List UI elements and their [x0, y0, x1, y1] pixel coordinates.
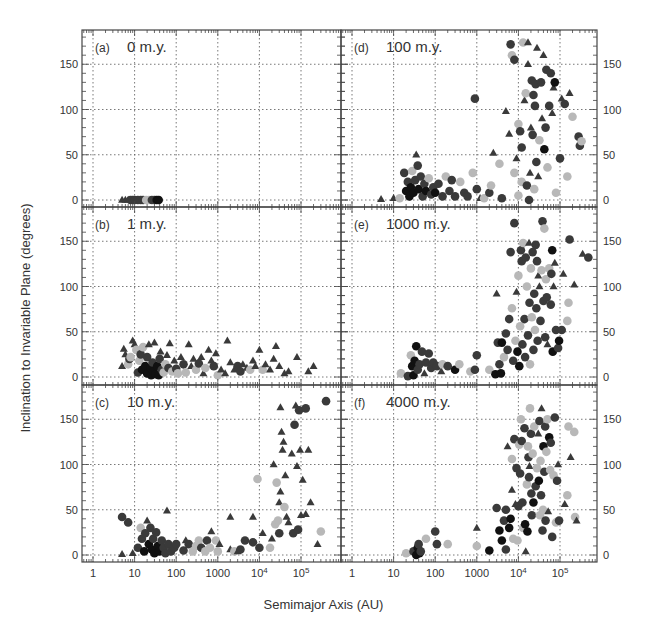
circle-marker: [584, 253, 593, 262]
y-tick-label: 150: [60, 58, 78, 70]
panel-e: 050100150(e)1000 m.y.: [341, 207, 621, 385]
circle-marker: [184, 540, 193, 549]
triangle-marker: [314, 540, 322, 547]
triangle-marker: [120, 345, 128, 352]
circle-marker: [538, 217, 547, 226]
x-tick-label: 105: [293, 566, 310, 579]
circle-marker: [533, 257, 542, 266]
triangle-marker: [473, 524, 481, 531]
circle-marker: [521, 253, 530, 262]
y-tick-label: 50: [66, 326, 78, 338]
circle-marker: [431, 188, 440, 197]
circle-marker: [536, 317, 545, 326]
circle-marker: [322, 397, 331, 406]
circle-marker: [487, 181, 496, 190]
circle-marker: [555, 516, 564, 525]
circle-marker: [508, 304, 517, 313]
circle-marker: [517, 415, 526, 424]
panel-time-label: 1 m.y.: [127, 215, 167, 232]
y-tick-label: 50: [603, 504, 615, 516]
circle-marker: [456, 178, 465, 187]
circle-marker: [497, 369, 506, 378]
circle-marker: [447, 176, 456, 185]
x-tick-label: 104: [251, 566, 268, 579]
circle-marker: [529, 498, 538, 507]
circle-marker: [400, 169, 409, 178]
circle-marker: [537, 491, 546, 500]
triangle-marker: [166, 339, 174, 346]
circle-marker: [236, 367, 245, 376]
triangle-marker: [207, 527, 215, 534]
panel-label: (b): [95, 218, 110, 232]
circle-marker: [172, 540, 181, 549]
circle-marker: [538, 526, 547, 535]
triangle-marker: [524, 60, 532, 67]
triangle-marker: [157, 347, 165, 354]
circle-marker: [468, 169, 477, 178]
triangle-marker: [538, 404, 546, 411]
triangle-marker: [502, 107, 510, 114]
circle-marker: [506, 40, 515, 49]
triangle-marker: [412, 151, 420, 158]
circle-marker: [532, 304, 541, 313]
circle-marker: [526, 360, 535, 369]
circle-marker: [502, 329, 511, 338]
triangle-marker: [288, 449, 296, 456]
panel-time-label: 100 m.y.: [386, 38, 442, 55]
y-tick-label: 100: [603, 281, 621, 293]
triangle-marker: [293, 462, 301, 469]
triangle-marker: [284, 367, 292, 374]
circle-marker: [546, 438, 555, 447]
circle-marker: [525, 196, 534, 205]
circle-marker: [543, 415, 552, 424]
triangle-marker: [249, 513, 257, 520]
circle-marker: [524, 442, 533, 451]
triangle-marker: [259, 529, 267, 536]
circle-marker: [140, 547, 149, 556]
circle-marker: [516, 127, 525, 136]
triangle-marker: [551, 259, 559, 266]
x-tick-label: 1000: [206, 567, 230, 579]
circle-marker: [473, 351, 482, 360]
triangle-marker: [559, 270, 567, 277]
circle-marker: [531, 102, 540, 111]
circle-marker: [543, 163, 552, 172]
x-tick-label: 100: [426, 567, 444, 579]
circle-marker: [530, 289, 539, 298]
triangle-marker: [272, 342, 280, 349]
triangle-marker: [512, 288, 520, 295]
circle-marker: [537, 266, 546, 275]
triangle-marker: [270, 355, 278, 362]
circle-marker: [505, 315, 514, 324]
y-tick-label: 100: [60, 281, 78, 293]
y-tick-label: 0: [72, 371, 78, 383]
circle-marker: [563, 172, 572, 181]
circle-marker: [508, 455, 517, 464]
x-axis-label: Semimajor Axis (AU): [0, 597, 647, 612]
circle-marker: [433, 540, 442, 549]
circle-marker: [471, 94, 480, 103]
circle-marker: [438, 192, 447, 201]
circle-marker: [542, 448, 551, 457]
triangle-marker: [150, 338, 158, 345]
circle-marker: [541, 333, 550, 342]
y-tick-label: 0: [603, 371, 609, 383]
y-tick-label: 150: [60, 413, 78, 425]
data-points: [118, 397, 331, 558]
triangle-marker: [296, 446, 304, 453]
triangle-marker: [561, 500, 569, 507]
circle-marker: [529, 346, 538, 355]
triangle-marker: [570, 280, 578, 287]
y-tick-label: 0: [72, 194, 78, 206]
x-tick-label: 1000: [465, 567, 489, 579]
circle-marker: [517, 143, 526, 152]
circle-marker: [526, 404, 535, 413]
circle-marker: [541, 516, 550, 525]
circle-marker: [553, 476, 562, 485]
circle-marker: [413, 161, 422, 170]
circle-marker: [517, 246, 526, 255]
circle-marker: [416, 547, 425, 556]
circle-marker: [236, 545, 245, 554]
triangle-marker: [280, 438, 288, 445]
circle-marker: [520, 315, 529, 324]
